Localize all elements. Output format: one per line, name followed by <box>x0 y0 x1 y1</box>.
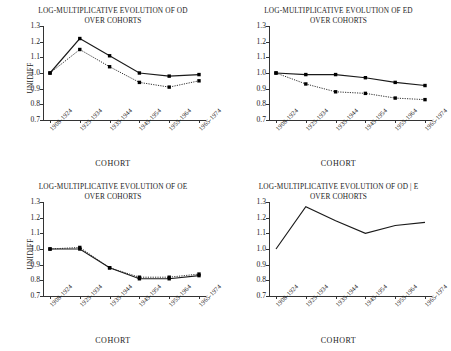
x-tick-mark <box>199 120 200 123</box>
data-point-marker <box>334 73 337 76</box>
x-axis-title-od: COHORT <box>0 159 226 168</box>
y-tick-label: 1.0 <box>257 69 267 77</box>
series-line-solid <box>50 39 199 77</box>
data-point-marker <box>48 71 51 74</box>
y-tick-mark <box>266 280 269 281</box>
x-axis-title-od-given-e: COHORT <box>226 336 451 345</box>
y-tick-mark <box>40 218 43 219</box>
data-point-marker <box>108 54 111 57</box>
x-tick-mark <box>139 120 140 123</box>
chart-title-line-1: LOG-MULTIPLICATIVE EVOLUTION OF OD | E <box>226 182 451 192</box>
chart-title-line-1: LOG-MULTIPLICATIVE EVOLUTION OF ED <box>226 6 451 16</box>
chart-panel-ed: LOG-MULTIPLICATIVE EVOLUTION OF ED OVER … <box>226 0 451 176</box>
y-tick-label: 1.1 <box>31 53 41 61</box>
y-tick-mark <box>40 233 43 234</box>
x-tick-mark <box>425 296 426 299</box>
y-tick-mark <box>40 202 43 203</box>
data-point-marker <box>168 276 171 279</box>
data-point-marker <box>138 71 141 74</box>
plot-area-od: UNIDIFF 1.31.21.11.00.90.80.7 1908-19241… <box>0 26 226 176</box>
series-line-solid <box>50 249 199 279</box>
y-tick-label: 0.9 <box>257 261 267 269</box>
y-tick-mark <box>266 120 269 121</box>
plot-area-od-given-e: 1.31.21.11.00.90.80.7 1908-19241925-1934… <box>226 202 451 351</box>
x-tick-mark <box>365 120 366 123</box>
y-tick-label: 1.2 <box>257 38 267 46</box>
data-point-marker <box>423 84 426 87</box>
data-point-marker <box>168 74 171 77</box>
data-point-marker <box>197 79 200 82</box>
y-tick-label: 1.3 <box>31 198 41 206</box>
data-point-marker <box>197 73 200 76</box>
x-axis-title-ed: COHORT <box>226 159 451 168</box>
x-tick-mark <box>306 120 307 123</box>
data-point-marker <box>78 37 81 40</box>
y-tick-mark <box>266 218 269 219</box>
y-tick-mark <box>40 26 43 27</box>
x-tick-mark <box>169 120 170 123</box>
x-tick-mark <box>395 296 396 299</box>
data-point-marker <box>364 92 367 95</box>
y-tick-mark <box>266 57 269 58</box>
series-line-solid <box>276 207 425 249</box>
y-tick-mark <box>40 104 43 105</box>
x-tick-mark <box>276 120 277 123</box>
x-tick-mark <box>336 120 337 123</box>
y-tick-mark <box>40 296 43 297</box>
data-point-marker <box>304 82 307 85</box>
y-axis-ticks-ed: 1.31.21.11.00.90.80.7 <box>240 26 266 120</box>
y-tick-mark <box>266 296 269 297</box>
y-tick-mark <box>266 265 269 266</box>
data-point-marker <box>108 65 111 68</box>
y-tick-mark <box>266 42 269 43</box>
y-tick-mark <box>266 249 269 250</box>
y-tick-mark <box>40 265 43 266</box>
y-tick-mark <box>266 202 269 203</box>
chart-title-line-1: LOG-MULTIPLICATIVE EVOLUTION OF OE <box>0 182 226 192</box>
x-axis-title-oe: COHORT <box>0 336 226 345</box>
x-tick-mark <box>276 296 277 299</box>
y-tick-label: 0.8 <box>31 100 41 108</box>
plot-area-ed: 1.31.21.11.00.90.80.7 1908-19241925-1934… <box>226 26 451 176</box>
data-point-marker <box>78 48 81 51</box>
y-tick-mark <box>40 249 43 250</box>
series-line-dotted <box>276 73 425 100</box>
x-tick-mark <box>50 296 51 299</box>
data-point-marker <box>197 272 200 275</box>
data-point-marker <box>48 247 51 250</box>
y-tick-label: 1.3 <box>257 22 267 30</box>
y-tick-label: 0.8 <box>31 276 41 284</box>
y-axis-ticks-od: 1.31.21.11.00.90.80.7 <box>14 26 40 120</box>
y-tick-label: 1.1 <box>257 229 267 237</box>
x-tick-mark <box>306 296 307 299</box>
y-tick-label: 0.7 <box>257 292 267 300</box>
y-tick-label: 0.8 <box>257 276 267 284</box>
x-tick-mark <box>199 296 200 299</box>
y-tick-mark <box>40 57 43 58</box>
y-tick-label: 1.3 <box>31 22 41 30</box>
y-tick-mark <box>40 42 43 43</box>
chart-panel-oe: LOG-MULTIPLICATIVE EVOLUTION OF OE OVER … <box>0 176 226 351</box>
x-tick-mark <box>110 296 111 299</box>
x-tick-mark <box>50 120 51 123</box>
y-tick-label: 0.7 <box>31 292 41 300</box>
y-tick-mark <box>266 104 269 105</box>
plot-area-oe: UNIDIFF 1.31.21.11.00.90.80.7 1908-19241… <box>0 202 226 351</box>
y-tick-label: 0.9 <box>257 85 267 93</box>
y-tick-label: 1.2 <box>31 38 41 46</box>
figure-grid: LOG-MULTIPLICATIVE EVOLUTION OF OD OVER … <box>0 0 451 351</box>
y-tick-label: 1.2 <box>31 214 41 222</box>
data-point-marker <box>394 81 397 84</box>
y-tick-mark <box>266 26 269 27</box>
y-tick-mark <box>40 120 43 121</box>
y-tick-label: 0.7 <box>257 116 267 124</box>
y-tick-label: 1.3 <box>257 198 267 206</box>
x-tick-mark <box>395 120 396 123</box>
y-tick-mark <box>266 89 269 90</box>
x-tick-mark <box>425 120 426 123</box>
y-tick-mark <box>266 73 269 74</box>
chart-panel-od: LOG-MULTIPLICATIVE EVOLUTION OF OD OVER … <box>0 0 226 176</box>
chart-panel-od-given-e: LOG-MULTIPLICATIVE EVOLUTION OF OD | E O… <box>226 176 451 351</box>
data-point-marker <box>168 85 171 88</box>
x-tick-mark <box>365 296 366 299</box>
